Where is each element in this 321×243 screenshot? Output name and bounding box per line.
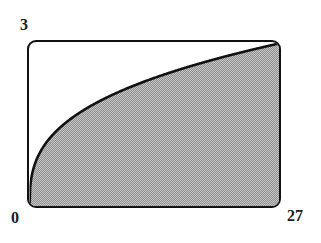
shaded-region-group	[29, 42, 281, 208]
y-axis-max-label: 3	[20, 17, 28, 33]
origin-label: 0	[11, 210, 19, 226]
area-under-curve	[29, 42, 281, 208]
chart-figure: 3 0 27	[0, 0, 321, 243]
x-axis-max-label: 27	[287, 208, 303, 224]
plot-frame	[27, 40, 281, 208]
plot-area	[27, 40, 281, 208]
